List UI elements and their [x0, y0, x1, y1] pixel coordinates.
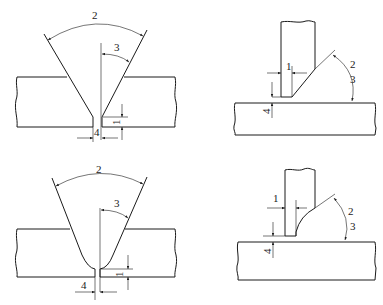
- label-angle-b: 3: [350, 220, 356, 232]
- weld-joint-diagram: 2 3 1 4 2 3 1 4: [0, 0, 383, 305]
- base-plate: [234, 103, 376, 135]
- left-plate: [15, 77, 93, 127]
- left-plate: [15, 229, 95, 277]
- label-bevel-angle: 3: [114, 41, 120, 53]
- left-bevel-edge: [44, 34, 93, 127]
- vertical-plate: [281, 21, 315, 97]
- label-groove-angle: 2: [92, 9, 98, 21]
- label-root-face: 4: [260, 108, 272, 114]
- label-root-gap: 4: [81, 279, 87, 291]
- label-root-gap: 4: [94, 126, 100, 138]
- left-groove-edge: [52, 178, 95, 277]
- bevel-extension: [315, 194, 335, 208]
- label-angle-a: 2: [350, 58, 356, 70]
- right-bevel-edge: [102, 30, 147, 127]
- bevel-angle-arc: [334, 198, 347, 240]
- label-gap: 1: [273, 192, 279, 204]
- bevel-angle-arc: [102, 54, 129, 62]
- label-angle-b: 3: [350, 73, 356, 85]
- right-plate: [100, 229, 177, 277]
- panel-bevel-t-joint: 2 3 1 4: [234, 21, 376, 135]
- label-angle-a: 2: [348, 205, 354, 217]
- label-bevel-angle: 3: [114, 197, 120, 209]
- label-groove-angle: 2: [96, 163, 102, 175]
- right-groove-edge: [100, 177, 147, 277]
- panel-u-groove-butt-joint: 2 3 1 4: [15, 163, 176, 300]
- groove-angle-arc: [56, 173, 143, 186]
- label-root-face: 1: [110, 120, 122, 126]
- bevel-angle-arc: [101, 210, 128, 218]
- label-root-face: 1: [113, 272, 125, 278]
- label-gap: 1: [286, 60, 292, 72]
- vertical-plate: [285, 168, 315, 236]
- panel-v-groove-butt-joint: 2 3 1 4: [15, 9, 176, 142]
- groove-angle-arc: [48, 24, 143, 40]
- panel-curved-bevel-t-joint: 2 3 1 4: [237, 168, 376, 280]
- base-plate: [237, 242, 376, 280]
- label-root-face: 4: [261, 248, 273, 254]
- bevel-extension: [315, 50, 335, 69]
- right-plate: [102, 77, 177, 127]
